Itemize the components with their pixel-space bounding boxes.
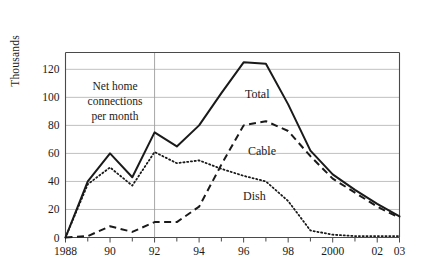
series-label-dish: Dish xyxy=(243,189,266,203)
x-tick-label: 92 xyxy=(149,245,161,257)
annotation-line-2: connections xyxy=(88,95,143,107)
x-tick-labels-group: 1988909294969820000203 xyxy=(54,245,406,257)
y-tick-label: 0 xyxy=(54,232,60,244)
series-line-cable xyxy=(66,121,400,237)
y-tick-label: 100 xyxy=(42,91,60,103)
x-tick-label: 90 xyxy=(104,245,116,257)
y-tick-label: 40 xyxy=(48,175,60,187)
x-tick-label: 03 xyxy=(394,245,406,257)
x-tick-label: 94 xyxy=(193,245,205,257)
annotation-line-3: per month xyxy=(92,110,139,123)
y-tick-label: 80 xyxy=(48,119,60,131)
chart-page: Thousands 020406080100120 19889092949698… xyxy=(0,0,425,270)
line-chart-plot: 020406080100120 1988909294969820000203 T… xyxy=(0,0,425,270)
series-label-cable: Cable xyxy=(248,144,276,158)
x-tick-label: 02 xyxy=(371,245,383,257)
x-tick-label: 1988 xyxy=(54,245,77,257)
y-tick-label: 60 xyxy=(48,147,60,159)
x-tick-label: 96 xyxy=(238,245,250,257)
x-tick-marks-group xyxy=(66,238,400,243)
series-label-total: Total xyxy=(245,87,270,101)
series-line-dish xyxy=(66,152,400,237)
chart-annotation-group: Net homeconnectionsper month xyxy=(88,80,143,123)
x-tick-label: 98 xyxy=(282,245,294,257)
annotation-line-1: Net home xyxy=(92,80,137,92)
y-tick-label: 120 xyxy=(42,63,60,75)
y-tick-labels-group: 020406080100120 xyxy=(42,63,60,243)
x-tick-label: 2000 xyxy=(321,245,344,257)
y-tick-label: 20 xyxy=(48,203,60,215)
